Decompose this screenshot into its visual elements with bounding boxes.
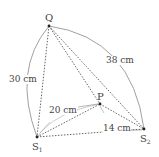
measure-q-s1: 30 cm — [9, 75, 37, 84]
point-p-label: P — [97, 92, 104, 102]
point-s2-letter: S — [140, 133, 147, 144]
point-p-dot — [99, 103, 102, 106]
segment-q-p — [49, 26, 100, 104]
point-s2-subscript: 2 — [147, 138, 151, 145]
tick-p — [100, 106, 104, 113]
point-s1-label: S1 — [32, 142, 43, 153]
point-s1-dot — [36, 136, 39, 139]
point-q-dot — [48, 25, 51, 28]
point-s2-label: S2 — [140, 134, 151, 145]
segment-q-s1 — [37, 26, 49, 137]
point-s2-dot — [143, 128, 146, 131]
measure-q-s2: 38 cm — [106, 56, 134, 65]
measure-s1-p: 20 cm — [49, 106, 77, 115]
measure-p-s2: 14 cm — [103, 124, 131, 133]
point-s1-subscript: 1 — [39, 146, 43, 153]
point-q-label: Q — [45, 13, 53, 23]
geometry-diagram: Q P S1 S2 30 cm 38 cm 20 cm 14 cm — [0, 0, 159, 157]
point-s1-letter: S — [32, 141, 39, 152]
